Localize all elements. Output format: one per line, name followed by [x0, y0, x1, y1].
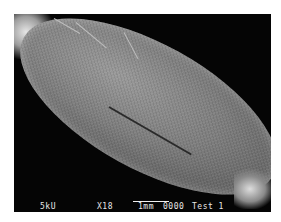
- scale-label: 1mm: [138, 202, 154, 211]
- voltage-label: 5kU: [40, 202, 56, 211]
- hair-tuft-bottom-right: [234, 169, 271, 209]
- image-number-label: 0000: [163, 202, 184, 211]
- magnification-label: X18: [97, 202, 113, 211]
- sem-image: 5kU X18 1mm 0000 Test 1: [14, 14, 271, 212]
- sample-label: Test 1: [192, 202, 224, 211]
- seed-grain: [14, 14, 271, 212]
